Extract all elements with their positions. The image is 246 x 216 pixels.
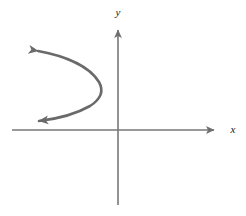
y-axis-label: y bbox=[115, 6, 121, 18]
figure-canvas: y x bbox=[0, 0, 246, 216]
x-axis-label: x bbox=[230, 123, 236, 135]
parabola-curve bbox=[38, 51, 101, 121]
coordinate-plane-graphic: y x bbox=[0, 0, 246, 216]
